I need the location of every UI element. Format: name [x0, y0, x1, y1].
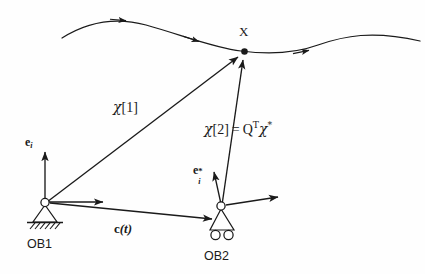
- basis-index-i: i: [30, 141, 32, 150]
- star-superscript: *: [268, 119, 273, 130]
- chi-1-index: [1]: [121, 100, 137, 115]
- figure-canvas: X χ[1] χ[2]=QTχ* c(t) ei ei* OB1 OB2: [0, 0, 425, 274]
- trajectory-direction-arrow-1: [110, 19, 126, 20]
- c-of-t-vector-arrow: [50, 203, 212, 219]
- observer-2-frame: [210, 172, 278, 240]
- chi-2-vector-label: χ[2]=QTχ*: [204, 120, 272, 137]
- observer-1-basis-label: ei: [25, 136, 33, 148]
- observer-1-frame: [27, 152, 103, 229]
- observer-1-name-label: OB1: [27, 238, 52, 251]
- c-of-t-vector-label: c(t): [114, 222, 132, 235]
- material-point-label: X: [239, 25, 248, 38]
- chi-2-index: [2]: [212, 122, 228, 137]
- chi-1-vector-label: χ[1]: [113, 100, 138, 115]
- observer-2-name-label: OB2: [204, 250, 229, 263]
- material-point-marker: [241, 48, 248, 55]
- chi-2-equals: =: [229, 122, 243, 137]
- observer-2-basis-label: ei*: [193, 164, 202, 176]
- trajectory-direction-arrow-2: [183, 36, 199, 41]
- diagram-vector-graphics: [0, 0, 425, 274]
- rotation-matrix-symbol: Q: [243, 122, 253, 137]
- chi-star-symbol: χ: [259, 121, 267, 137]
- c-argument: (t): [120, 221, 132, 236]
